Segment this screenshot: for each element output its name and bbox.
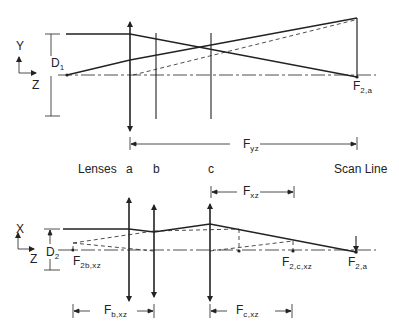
ray-top-2 — [67, 18, 357, 75]
fcxz-label: Fc,xz — [236, 304, 259, 319]
f2bxz-label: F2b,xz — [73, 255, 101, 270]
axis-x-label: X — [16, 223, 24, 235]
axis-z-label-top: Z — [32, 79, 39, 91]
d1-dimension — [45, 34, 60, 116]
top-axis-icon — [19, 57, 36, 73]
f2a-label-top: F2,a — [353, 80, 372, 95]
d1-label: D1 — [51, 57, 64, 72]
d2-label: D2 — [46, 246, 59, 261]
ray-top-dashed — [133, 20, 355, 75]
fbxz-label: Fb,xz — [104, 304, 127, 319]
fyz-label: Fyz — [243, 138, 259, 153]
lenses-label: Lenses — [78, 163, 117, 175]
axis-z-label-bottom: Z — [30, 253, 37, 265]
f2a-label-bottom: F2,a — [348, 256, 367, 271]
axis-y-label: Y — [16, 40, 24, 52]
lens-c-label: c — [208, 163, 214, 175]
lens-a-label: a — [126, 163, 133, 175]
optical-diagram: Y Z D1 F2,a Fyz Lenses a b c Scan Line X… — [0, 0, 399, 334]
lens-b-label: b — [153, 163, 160, 175]
f2cxz-label: F2,c,xz — [282, 256, 312, 271]
rays-bottom-dashed — [73, 229, 293, 252]
scan-line-label: Scan Line — [334, 163, 387, 175]
fxz-label: Fxz — [243, 185, 259, 200]
